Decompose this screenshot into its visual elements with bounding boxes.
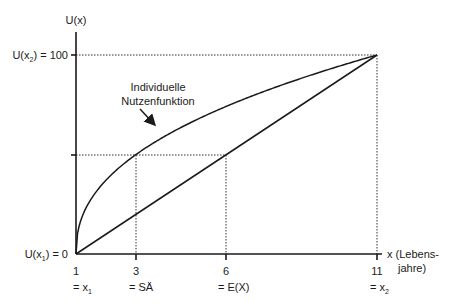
y-top-label: U(x2) = 100	[12, 49, 68, 63]
annotation-arrow-icon	[140, 109, 154, 124]
utility-diagram: Individuelle Nutzenfunktion U(x) U(x2) =…	[0, 0, 452, 307]
x-tick-label-1: 1	[73, 265, 79, 277]
x-tick-sub-1: = x1	[73, 281, 92, 295]
annotation-line2: Nutzenfunktion	[121, 95, 194, 107]
x-tick-sub-6: = E(X)	[218, 281, 249, 293]
x-tick-sub-11: = x2	[370, 281, 389, 295]
y-bottom-label: U(x1) = 0	[25, 248, 68, 262]
x-axis-label-line1: x (Lebens-	[387, 248, 439, 260]
x-axis-label-line2: jahre)	[397, 262, 426, 274]
x-tick-label-6: 6	[223, 265, 229, 277]
x-tick-sub-3: = SÄ	[129, 281, 154, 293]
x-tick-label-3: 3	[133, 265, 139, 277]
annotation-line1: Individuelle	[130, 81, 185, 93]
x-tick-labels: 1 = x1 3 = SÄ 6 = E(X) 11 = x2	[73, 265, 389, 295]
y-axis-label: U(x)	[66, 14, 87, 26]
x-tick-label-11: 11	[371, 265, 382, 277]
